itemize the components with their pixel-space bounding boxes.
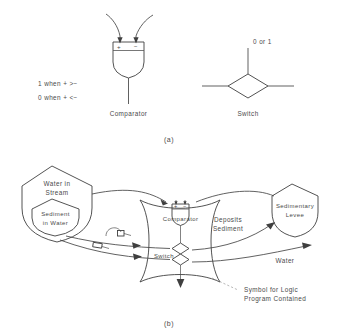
comparator-minus-label: − xyxy=(134,43,138,50)
panel-b: Water in Stream Sediment in Water Sedime… xyxy=(22,166,318,328)
sediment-in-water-label-line1: Sediment xyxy=(41,211,70,217)
flow-logic-to-levee-top xyxy=(196,191,274,202)
inner-switch-symbols xyxy=(172,243,189,288)
comparator-rule-high: 1 when + >− xyxy=(38,80,78,87)
panel-a-label: (a) xyxy=(164,136,174,144)
annotation-leader-line xyxy=(212,278,238,290)
flow-sediment-arrowhead xyxy=(132,242,141,249)
sedimentary-levee-label-line1: Sedimentary xyxy=(276,203,314,209)
panel-a: + − Comparator 1 when + >− 0 when + <− 0… xyxy=(38,14,294,144)
flow-water-out-arrowhead xyxy=(302,243,312,249)
figure-canvas: + − Comparator 1 when + >− 0 when + <− 0… xyxy=(0,0,338,334)
water-in-stream-label-line2: Stream xyxy=(46,189,69,196)
switch-symbol xyxy=(202,48,294,98)
comparator-plus-label: + xyxy=(117,43,121,50)
sensor-probe-upper xyxy=(106,228,131,236)
water-flow-label: Water xyxy=(276,257,295,264)
annotation-label-line1: Symbol for Logic xyxy=(244,286,298,294)
deposits-sediment-label-line2: Sediment xyxy=(213,225,243,232)
node-water-in-stream: Water in Stream xyxy=(22,166,92,242)
panel-b-label: (b) xyxy=(164,320,174,328)
inner-comparator-caption: Comparator xyxy=(163,216,199,222)
flow-deposits-arrowhead xyxy=(266,222,275,229)
figure-sheet: + − Comparator 1 when + >− 0 when + <− 0… xyxy=(0,0,338,334)
water-in-stream-label-line1: Water in xyxy=(44,180,71,187)
inner-switch-caption: Switch xyxy=(154,253,174,259)
deposits-sediment-label-line1: Deposits xyxy=(214,216,242,224)
annotation-label-line2: Program Contained xyxy=(244,295,306,303)
outflow-arrowhead-down xyxy=(177,279,185,288)
comparator-caption: Comparator xyxy=(110,110,148,118)
node-sediment-in-water: Sediment in Water xyxy=(32,199,79,236)
flow-water-arrowhead-in xyxy=(133,253,142,260)
comparator-rule-low: 0 when + <− xyxy=(38,94,78,101)
logic-program-symbol xyxy=(140,200,220,282)
flow-stream-to-logic xyxy=(92,190,166,202)
switch-state-label: 0 or 1 xyxy=(253,38,272,45)
comparator-symbol: + − xyxy=(106,14,153,104)
switch-caption: Switch xyxy=(237,110,258,117)
sediment-in-water-label-line2: in Water xyxy=(43,220,68,226)
sedimentary-levee-label-line2: Levee xyxy=(286,212,305,218)
node-sedimentary-levee: Sedimentary Levee xyxy=(272,184,318,237)
